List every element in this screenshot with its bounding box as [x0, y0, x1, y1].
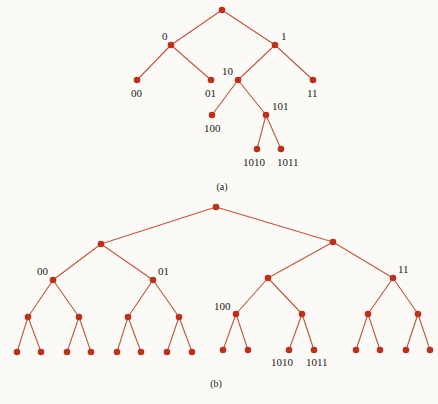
tree-edge [117, 317, 128, 352]
tree-node [233, 311, 240, 318]
tree-node [278, 146, 285, 153]
tree-edge [268, 278, 302, 314]
tree-node [390, 275, 397, 282]
tree-node [25, 314, 32, 321]
tree-node [299, 311, 306, 318]
tree-edge [216, 207, 333, 242]
tree-edge [302, 314, 314, 350]
node-label: 1011 [306, 356, 328, 368]
tree-edge [268, 242, 333, 278]
tree-node [208, 77, 215, 84]
tree-edge [179, 317, 192, 352]
tree-edge [275, 45, 313, 80]
tree-node [245, 347, 252, 354]
binary-tree-figure: 010001101110010110101011(a) 000111100101… [0, 0, 438, 404]
tree-edge [238, 45, 275, 80]
tree-node [138, 349, 145, 356]
tree-node [415, 311, 422, 318]
tree-edge [222, 10, 275, 45]
node-label: 11 [307, 87, 318, 99]
tree-edge [356, 314, 368, 350]
tree-node [189, 349, 196, 356]
tree-edge [257, 115, 266, 149]
tree-edge [171, 45, 211, 80]
tree-edge [167, 317, 179, 352]
tree-edge [53, 280, 79, 317]
tree-edge [393, 278, 418, 314]
node-label: 1011 [277, 156, 299, 168]
tree-node [377, 347, 384, 354]
node-label: 100 [204, 122, 221, 134]
node-label: 100 [214, 300, 231, 312]
tree-node [310, 77, 317, 84]
tree-node [150, 277, 157, 284]
tree-node [330, 239, 337, 246]
tree-node [286, 347, 293, 354]
tree-edge [101, 244, 153, 280]
tree-node [365, 311, 372, 318]
figure-caption: (a) [216, 181, 227, 193]
node-label: 00 [131, 87, 143, 99]
node-label: 01 [205, 87, 216, 99]
tree-node [209, 112, 216, 119]
tree-node [164, 349, 171, 356]
tree-edge [28, 280, 53, 317]
tree-edge [236, 314, 248, 350]
tree-edge [101, 207, 216, 244]
node-label: 1010 [271, 356, 294, 368]
tree-edge [368, 314, 380, 350]
node-label: 1010 [243, 156, 266, 168]
node-label: 0 [162, 30, 168, 42]
tree-node [14, 349, 21, 356]
tree-node [263, 112, 270, 119]
figure-caption: (b) [210, 378, 222, 390]
node-label: 101 [272, 100, 289, 112]
tree-edge [236, 278, 268, 314]
tree-node [125, 314, 132, 321]
tree-node [219, 7, 226, 14]
tree-node [265, 275, 272, 282]
tree-edge [79, 317, 91, 352]
tree-node [220, 347, 227, 354]
tree-edge [289, 314, 302, 350]
tree-node [134, 77, 141, 84]
tree-edge [266, 115, 281, 149]
tree-node [168, 42, 175, 49]
tree-edge [238, 80, 266, 115]
tree-node [254, 146, 261, 153]
tree-node [353, 347, 360, 354]
node-label: 10 [222, 65, 234, 77]
tree-node [213, 204, 220, 211]
tree-edge [128, 280, 153, 317]
node-label: 00 [37, 265, 49, 277]
tree-edge [418, 314, 430, 350]
tree-node [76, 314, 83, 321]
tree-a: 010001101110010110101011(a) [131, 7, 318, 193]
tree-edge [171, 10, 222, 45]
tree-node [403, 347, 410, 354]
tree-edge [53, 244, 101, 280]
tree-node [114, 349, 121, 356]
node-label: 01 [158, 265, 169, 277]
tree-edge [137, 45, 171, 80]
tree-node [235, 77, 242, 84]
tree-edge [17, 317, 28, 352]
node-label: 1 [281, 30, 287, 42]
node-label: 11 [398, 263, 409, 275]
tree-node [50, 277, 57, 284]
tree-edge [28, 317, 41, 352]
tree-node [98, 241, 105, 248]
tree-edge [333, 242, 393, 278]
tree-node [38, 349, 45, 356]
tree-edge [67, 317, 79, 352]
tree-edge [223, 314, 236, 350]
tree-edge [406, 314, 418, 350]
tree-node [88, 349, 95, 356]
tree-node [311, 347, 318, 354]
tree-edge [128, 317, 141, 352]
tree-b: 00011110010101011(b) [14, 204, 434, 390]
tree-node [427, 347, 434, 354]
tree-edge [153, 280, 179, 317]
tree-node [176, 314, 183, 321]
tree-node [64, 349, 71, 356]
